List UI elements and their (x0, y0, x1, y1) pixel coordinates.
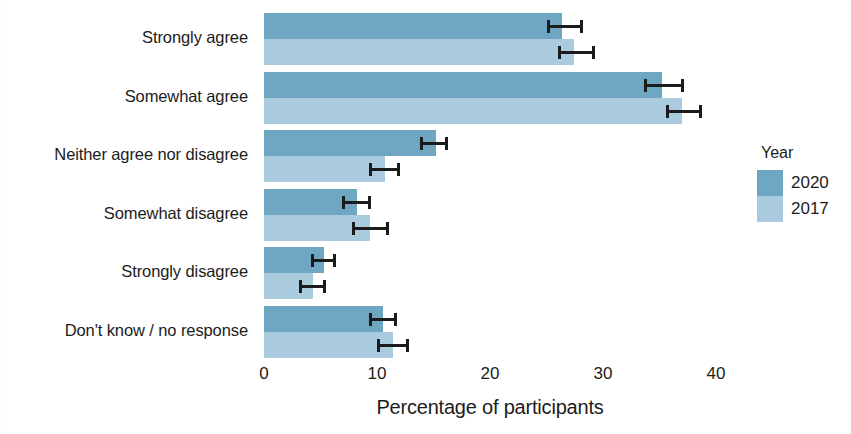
plot-area (264, 0, 724, 360)
error-bar-2020 (547, 25, 583, 28)
error-bar-cap (580, 20, 583, 33)
error-bar-2020 (369, 318, 397, 321)
error-bar-2017 (369, 168, 400, 171)
y-axis-category-label: Strongly agree (142, 28, 248, 47)
error-bar-cap (445, 137, 448, 150)
error-bar-cap (592, 46, 595, 59)
error-bar-cap (420, 137, 423, 150)
bar-2020 (264, 130, 436, 156)
error-bar-2020 (644, 84, 685, 87)
error-bar-cap (333, 254, 336, 267)
x-axis-tick-label: 20 (481, 364, 500, 384)
bar-2020 (264, 72, 662, 98)
x-axis-title: Percentage of participants (264, 396, 716, 419)
bar-2017 (264, 39, 574, 65)
error-bar-cap (386, 222, 389, 235)
x-axis-tick-label: 0 (259, 364, 268, 384)
error-bar-cap (394, 313, 397, 326)
x-axis-tick-label: 40 (707, 364, 726, 384)
bar-2020 (264, 306, 383, 332)
error-bar-cap (311, 254, 314, 267)
error-bar-cap (666, 105, 669, 118)
legend-item-2017: 2017 (757, 196, 847, 222)
error-bar-cap (397, 163, 400, 176)
error-bar-cap (681, 79, 684, 92)
error-bar-cap (699, 105, 702, 118)
bar-2017 (264, 332, 393, 358)
error-bar-2017 (666, 110, 702, 113)
error-bar-cap (342, 196, 345, 209)
y-axis-category-label: Don't know / no response (65, 321, 248, 340)
error-bar-cap (377, 339, 380, 352)
legend-swatch (757, 170, 783, 196)
y-axis-category-label: Somewhat disagree (104, 204, 248, 223)
legend-label: 2020 (791, 173, 829, 193)
error-bar-2020 (342, 201, 371, 204)
y-axis-category-label: Strongly disagree (121, 262, 248, 281)
error-bar-2020 (420, 142, 448, 145)
error-bar-cap (352, 222, 355, 235)
error-bar-cap (299, 280, 302, 293)
legend-swatch (757, 196, 783, 222)
y-axis-category-label: Neither agree nor disagree (54, 145, 248, 164)
y-axis-labels: Strongly agreeSomewhat agreeNeither agre… (0, 0, 248, 360)
bar-chart: Strongly agreeSomewhat agreeNeither agre… (0, 0, 851, 434)
error-bar-cap (644, 79, 647, 92)
legend-title: Year (761, 144, 847, 162)
y-axis-category-label: Somewhat agree (125, 87, 248, 106)
error-bar-2020 (311, 259, 336, 262)
legend: Year 20202017 (757, 144, 847, 222)
error-bar-2017 (352, 227, 389, 230)
error-bar-cap (323, 280, 326, 293)
error-bar-cap (368, 196, 371, 209)
legend-item-2020: 2020 (757, 170, 847, 196)
error-bar-2017 (558, 51, 595, 54)
bar-2017 (264, 156, 385, 182)
bar-2020 (264, 13, 562, 39)
error-bar-cap (547, 20, 550, 33)
bar-group (264, 306, 724, 358)
legend-label: 2017 (791, 199, 829, 219)
error-bar-cap (369, 163, 372, 176)
error-bar-cap (369, 313, 372, 326)
error-bar-cap (558, 46, 561, 59)
error-bar-cap (406, 339, 409, 352)
x-axis-tick-label: 10 (368, 364, 387, 384)
bar-2017 (264, 98, 682, 124)
bar-group (264, 189, 724, 241)
error-bar-2017 (377, 344, 409, 347)
bar-group (264, 72, 724, 124)
bar-group (264, 13, 724, 65)
x-axis-tick-labels: 010203040 (264, 364, 734, 390)
bar-group (264, 130, 724, 182)
bar-group (264, 247, 724, 299)
x-axis-tick-label: 30 (594, 364, 613, 384)
error-bar-2017 (299, 285, 326, 288)
legend-entries: 20202017 (757, 170, 847, 222)
